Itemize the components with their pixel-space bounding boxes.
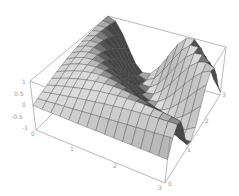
z-tick-1: 1 — [22, 78, 26, 85]
x-tick-0: 0 — [31, 130, 35, 137]
y-tick-3: 3 — [222, 91, 226, 98]
y-tick-2: 2 — [205, 117, 209, 124]
x-tick-2: 2 — [113, 162, 117, 169]
box-edge — [220, 47, 226, 95]
surface-mesh — [33, 16, 220, 159]
z-tick-neg1: -1 — [22, 124, 28, 131]
z-tick-0: 0 — [22, 101, 26, 108]
z-tick-0.5: 0.5 — [14, 90, 24, 97]
surface-plot: 1 0.5 0 -0.5 -1 0 1 2 3 0 1 2 3 — [0, 0, 239, 196]
y-tick-0: 0 — [168, 180, 172, 187]
y-tick-1: 1 — [187, 146, 191, 153]
x-tick-1: 1 — [70, 145, 74, 152]
x-tick-3: 3 — [158, 184, 162, 191]
z-tick-neg0.5: -0.5 — [11, 113, 23, 120]
